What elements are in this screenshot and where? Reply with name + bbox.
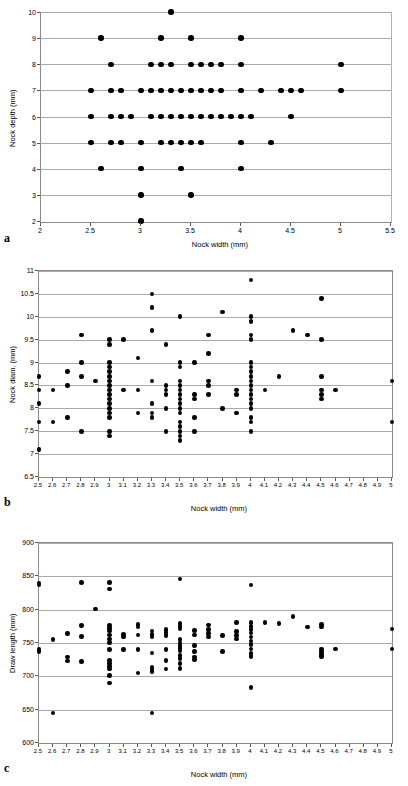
y-tick-label: 10.5 [8,290,34,297]
x-tick-mark [90,223,91,226]
data-point [178,365,183,370]
data-point [158,88,163,93]
data-point [333,388,338,393]
x-tick-mark [52,744,53,747]
data-point [238,35,243,40]
data-point [121,635,126,640]
data-point [93,379,98,384]
data-point [208,62,213,67]
data-point [319,337,324,342]
data-point [208,88,213,93]
data-point [178,140,183,145]
x-tick-mark [66,744,67,747]
y-tick-label: 8.5 [8,381,34,388]
panel-b-label: b [4,496,11,508]
x-tick-mark [278,744,279,747]
data-point [188,88,193,93]
y-tick-mark [35,675,38,676]
data-point [390,647,395,652]
y-tick-mark [35,453,38,454]
y-tick-mark [35,476,38,477]
data-point [192,429,197,434]
data-point [319,374,324,379]
data-point [164,658,169,663]
data-point [79,623,84,628]
y-tick-mark [35,339,38,340]
data-point [218,114,223,119]
y-tick-label: 9.5 [8,336,34,343]
data-point [206,351,211,356]
y-tick-label: 6.5 [8,473,34,480]
x-tick-mark [52,478,53,481]
data-point [107,580,112,585]
y-tick-label: 5 [10,140,36,147]
y-tick-mark [37,221,40,222]
data-point [51,637,56,642]
x-tick-mark [363,478,364,481]
x-tick-label: 4.5 [280,227,300,234]
data-point [107,429,112,434]
y-tick-mark [37,64,40,65]
gridline-horizontal [39,643,392,644]
data-point [158,35,163,40]
data-point [88,88,93,93]
x-tick-mark [109,744,110,747]
data-point [65,415,70,420]
panel-b: b Nock diam. (mm) Nock width (mm) 6.577.… [0,258,408,520]
data-point [228,114,233,119]
y-tick-label: 9 [8,359,34,366]
panel-a-plot-area [40,12,392,223]
x-tick-mark [390,223,391,226]
data-point [178,627,183,632]
data-point [338,88,343,93]
data-point [108,140,113,145]
data-point [390,379,395,384]
data-point [319,654,324,659]
y-tick-label: 6 [10,114,36,121]
data-point [150,635,155,640]
data-point [305,333,310,338]
data-point [218,88,223,93]
data-point [234,411,239,416]
data-point [158,140,163,145]
data-point [164,647,169,652]
data-point [136,356,141,361]
x-tick-mark [377,478,378,481]
y-tick-label: 600 [8,739,34,746]
data-point [150,305,155,310]
data-point [136,633,141,638]
data-point [178,429,183,434]
y-tick-label: 9 [10,35,36,42]
data-point [98,35,103,40]
data-point [220,649,225,654]
panel-a-x-axis-label: Nock width (mm) [40,240,400,249]
y-tick-mark [35,293,38,294]
y-tick-label: 850 [8,572,34,579]
data-point [198,62,203,67]
x-tick-mark [236,478,237,481]
data-point [192,657,197,662]
gridline-horizontal [39,385,392,386]
y-tick-mark [35,316,38,317]
data-point [121,388,126,393]
x-tick-mark [137,744,138,747]
data-point [164,342,169,347]
x-tick-mark [38,744,39,747]
data-point [249,642,254,647]
data-point [390,420,395,425]
x-tick-mark [340,223,341,226]
data-point [37,447,42,452]
x-tick-mark [165,478,166,481]
x-tick-mark [179,478,180,481]
y-tick-label: 700 [8,672,34,679]
y-tick-mark [35,270,38,271]
y-tick-label: 2 [10,218,36,225]
x-tick-mark [236,744,237,747]
data-point [263,388,268,393]
data-point [238,62,243,67]
data-point [238,166,243,171]
data-point [164,429,169,434]
data-point [79,360,84,365]
data-point [37,420,42,425]
gridline-horizontal [39,710,392,711]
